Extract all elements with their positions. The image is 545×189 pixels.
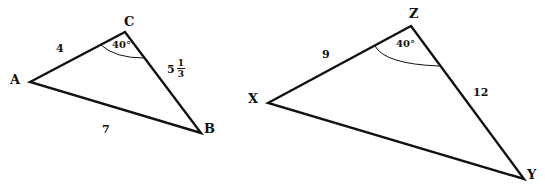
vertex-label-z: Z [409,7,419,20]
side-label-zy: 12 [473,87,488,98]
vertex-label-c: C [124,15,134,28]
angle-label-z: 40° [396,39,415,49]
side-label-cb-denominator: 3 [177,70,185,79]
side-label-cb-whole: 5 [167,64,175,75]
side-label-ab: 7 [102,124,110,135]
vertex-label-a: A [10,73,20,86]
angle-label-c: 40° [112,40,131,50]
vertex-label-b: B [204,122,215,135]
side-label-cb-numerator: 1 [177,59,185,69]
side-label-ac: 4 [56,43,64,54]
vertex-label-y: Y [527,168,536,181]
side-label-xz: 9 [322,49,330,60]
diagram-canvas [0,0,545,189]
vertex-label-x: X [248,92,258,105]
